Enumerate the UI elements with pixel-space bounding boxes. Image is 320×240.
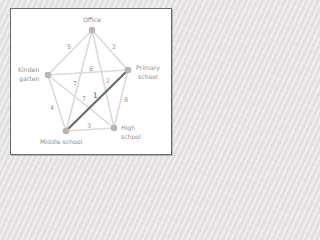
weight-office-high: 2 <box>106 77 110 85</box>
label-high-line1: High <box>121 124 135 132</box>
label-primary-line2: school <box>138 73 158 80</box>
edge-kindergarten-middle <box>48 75 66 131</box>
node-office <box>89 27 96 34</box>
label-kindergarten-line1: Kinden <box>18 66 39 73</box>
weight-kindergarten-primary: 6 <box>89 65 93 73</box>
node-middle <box>63 128 70 135</box>
label-primary-line1: Primary <box>136 64 160 72</box>
label-middle: Middle school <box>40 138 83 145</box>
edge-office-primary <box>92 30 128 70</box>
label-office: Office <box>83 16 101 23</box>
weight-middle-high: 3 <box>87 122 91 130</box>
weight-primary-high: 8 <box>124 96 128 104</box>
node-high <box>111 125 118 132</box>
weight-kindergarten-high: 7 <box>82 95 86 103</box>
weight-office-primary: 2 <box>112 43 116 51</box>
label-high-line2: school <box>121 133 141 140</box>
weight-kindergarten-middle: 4 <box>50 104 54 112</box>
edge-kindergarten-primary <box>48 70 128 75</box>
weight-office-kindergarten: 5 <box>67 43 71 51</box>
graph-diagram: Office Kinden garten Primary school Midd… <box>0 0 177 165</box>
node-primary <box>125 67 132 74</box>
weight-office-middle: 7 <box>73 80 77 88</box>
weight-primary-middle: 1 <box>93 91 98 100</box>
label-kindergarten-line2: garten <box>19 75 39 83</box>
node-kindergarten <box>45 72 52 79</box>
